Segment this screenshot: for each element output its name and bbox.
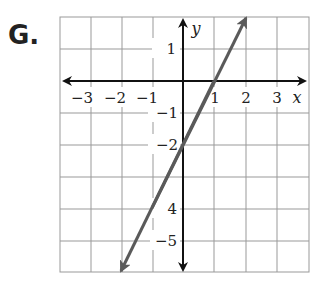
y-tick-label: −2 [156,136,178,154]
coordinate-graph: −3 −2 −1 1 2 3 x y 1 −1 −2 4 −5 [0,0,320,284]
x-tick-label: 2 [241,89,251,107]
x-tick-label: −3 [71,89,93,107]
y-tick-label: −5 [155,232,177,250]
x-tick-label: 1 [210,89,220,107]
x-tick-label: −1 [136,89,158,107]
x-axis-label: x [292,88,301,107]
x-tick-label: 3 [272,89,282,107]
y-tick-label: −1 [156,104,178,122]
y-tick-label: 1 [166,40,176,58]
x-tick-label: −2 [104,89,126,107]
y-axis-label: y [190,19,201,38]
y-tick-label: 4 [167,200,177,218]
